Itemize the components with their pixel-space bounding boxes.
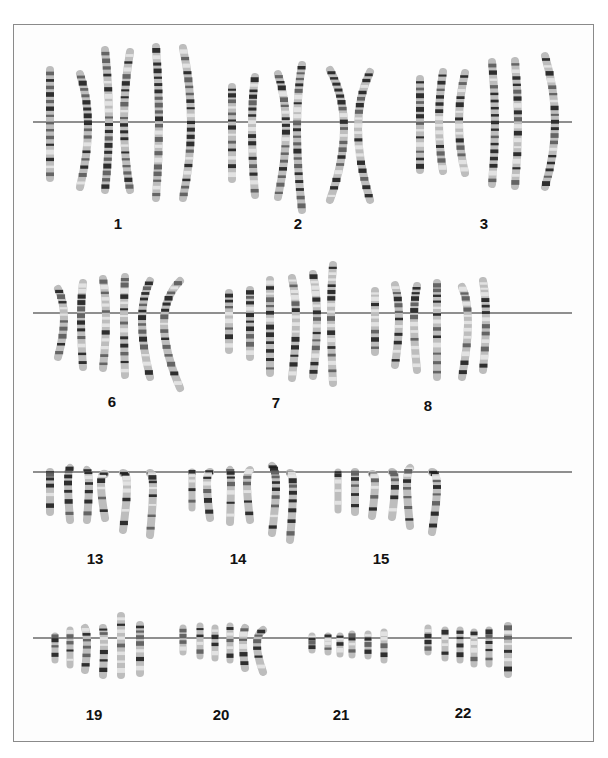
- chromosome: [433, 283, 441, 377]
- chromosome: [351, 471, 359, 512]
- chromosome: [293, 65, 306, 210]
- chromosome: [203, 470, 213, 518]
- chromosome: [455, 73, 468, 173]
- chromosome: [403, 467, 413, 526]
- chromosome: [504, 625, 512, 674]
- chromosome-label-20: 20: [213, 706, 230, 723]
- chromosome-group-13: [46, 467, 157, 535]
- chromosome: [239, 628, 248, 668]
- chromosome: [354, 72, 373, 200]
- chromosome: [243, 469, 253, 520]
- chromosome-label-8: 8: [424, 397, 432, 414]
- chromosome: [365, 634, 372, 656]
- chromosome: [52, 634, 59, 660]
- chromosome: [99, 628, 108, 675]
- chromosome: [457, 630, 464, 660]
- chromosome: [77, 283, 87, 367]
- chromosome: [392, 285, 403, 365]
- chromosome: [349, 633, 356, 655]
- chromosome: [266, 280, 274, 373]
- chromosome-label-13: 13: [87, 550, 104, 567]
- chromosome: [310, 274, 321, 376]
- chromosome: [471, 632, 478, 664]
- chromosome: [381, 631, 388, 660]
- chromosome: [389, 471, 399, 517]
- chromosome-label-14: 14: [230, 550, 247, 567]
- chromosome: [335, 471, 342, 510]
- chromosome: [325, 635, 332, 652]
- chromosome-group-6: [55, 277, 182, 388]
- chromosome: [180, 628, 187, 652]
- chromosome: [212, 628, 219, 658]
- chromosome-group-7: [225, 265, 337, 383]
- chromosome: [269, 465, 280, 533]
- chromosome: [46, 471, 54, 512]
- chromosome-group-15: [335, 467, 442, 532]
- chromosome-label-19: 19: [86, 706, 103, 723]
- chromosome: [101, 50, 113, 190]
- chromosome: [327, 265, 337, 383]
- chromosome: [275, 74, 290, 197]
- chromosome: [371, 291, 379, 352]
- chromosome: [246, 290, 254, 357]
- chromosome: [226, 469, 235, 522]
- chromosome-label-2: 2: [294, 215, 302, 232]
- chromosome: [486, 629, 493, 664]
- chromosome-label-15: 15: [373, 550, 390, 567]
- chromosome: [511, 61, 522, 186]
- chromosome: [289, 278, 300, 378]
- chromosome: [327, 70, 348, 200]
- chromosome-group-8: [371, 281, 490, 377]
- chromosome: [117, 616, 125, 675]
- chromosome: [227, 626, 234, 660]
- chromosome: [369, 472, 379, 516]
- chromosome: [84, 469, 93, 520]
- chromosome: [459, 287, 472, 377]
- chromosome-group-22: [425, 625, 513, 674]
- chromosome: [416, 79, 424, 170]
- chromosome-label-1: 1: [114, 215, 122, 232]
- chromosome: [248, 77, 259, 195]
- chromosome: [120, 52, 133, 190]
- chromosome-label-21: 21: [333, 706, 350, 723]
- chromosome: [337, 636, 344, 654]
- chromosome: [197, 626, 204, 656]
- chromosome: [82, 628, 91, 670]
- chromosome-label-3: 3: [480, 215, 488, 232]
- chromosome: [189, 470, 196, 508]
- chromosome: [160, 281, 182, 388]
- chromosome: [55, 289, 68, 357]
- chromosome: [46, 70, 54, 178]
- chromosome: [429, 471, 441, 532]
- chromosome-label-22: 22: [455, 704, 472, 721]
- chromosome: [442, 630, 449, 658]
- chromosome-group-2: [228, 65, 373, 210]
- chromosome-group-21: [309, 631, 388, 660]
- chromosome: [77, 74, 92, 187]
- chromosome: [180, 48, 195, 198]
- karyogram: [0, 0, 608, 758]
- chromosome: [228, 87, 236, 179]
- chromosome: [67, 630, 74, 665]
- chromosome: [488, 62, 499, 184]
- chromosome: [99, 279, 110, 368]
- chromosome-group-20: [180, 626, 266, 672]
- chromosome-label-7: 7: [272, 394, 280, 411]
- chromosome: [253, 630, 265, 672]
- chromosome-label-6: 6: [108, 393, 116, 410]
- chromosome: [287, 471, 297, 540]
- chromosome: [410, 286, 421, 370]
- chromosome: [225, 293, 233, 350]
- chromosome: [120, 277, 129, 375]
- chromosome: [479, 281, 490, 370]
- chromosome: [97, 472, 108, 518]
- chromosome-group-19: [52, 616, 145, 675]
- chromosome-group-14: [189, 465, 297, 540]
- chromosome: [138, 281, 153, 377]
- chromosome: [136, 625, 144, 673]
- chromosome: [120, 472, 131, 530]
- chromosome: [309, 636, 316, 650]
- chromosome: [147, 472, 157, 535]
- chromosome: [64, 467, 73, 520]
- chromosome: [425, 628, 432, 652]
